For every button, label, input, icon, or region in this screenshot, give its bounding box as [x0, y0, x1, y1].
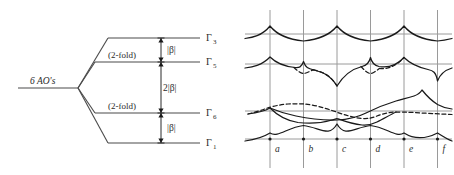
tick-dot-b: [302, 137, 305, 140]
degeneracy-label-gamma6: (2-fold): [108, 101, 136, 111]
gamma6-symbol: Γ: [206, 107, 212, 118]
gamma5-symbol: Γ: [206, 56, 212, 67]
gamma3-subscript: 3: [213, 38, 217, 46]
figure-root: 6 AO's (2-fold) (2-fold) |β| 2|: [0, 0, 454, 175]
band-structure-diagram: a b c d e f: [245, 10, 452, 168]
energy-level-splitting-diagram: 6 AO's (2-fold) (2-fold) |β| 2|: [18, 32, 217, 151]
tick-dot-c: [335, 137, 338, 140]
gap-label-middle: 2|β|: [163, 83, 176, 93]
band-curve-5-bottom: [245, 124, 452, 141]
level-label-gamma3: Γ 3: [206, 32, 217, 46]
fan-line-gamma5: [78, 62, 95, 88]
gap-arrow-upper: [158, 38, 165, 62]
tick-dot-d: [369, 137, 372, 140]
gamma6-subscript: 6: [213, 113, 217, 121]
tick-dot-e: [402, 137, 405, 140]
level-label-gamma6: Γ 6: [206, 107, 217, 121]
tick-label-f: f: [443, 144, 447, 154]
tick-label-a: a: [275, 144, 280, 154]
gamma1-symbol: Γ: [206, 137, 212, 148]
tick-dot-f: [436, 137, 439, 140]
tick-dot-a: [268, 137, 271, 140]
tick-label-e: e: [409, 144, 413, 154]
level-label-gamma1: Γ 1: [206, 137, 217, 151]
source-level-label: 6 AO's: [30, 76, 56, 86]
gamma5-subscript: 5: [213, 62, 217, 70]
gap-label-upper: |β|: [167, 45, 176, 55]
band-curve-2-solid: [245, 57, 452, 86]
gamma1-subscript: 1: [213, 143, 217, 151]
gamma3-symbol: Γ: [206, 32, 212, 43]
band-curve-2-dashed-link-left: [314, 70, 338, 86]
tick-label-b: b: [309, 144, 314, 154]
level-label-gamma5: Γ 5: [206, 56, 217, 70]
gap-label-lower: |β|: [167, 123, 176, 133]
tick-label-d: d: [376, 144, 381, 154]
fan-line-gamma1: [78, 88, 108, 143]
tick-label-c: c: [342, 144, 347, 154]
gap-arrow-lower: [158, 113, 165, 143]
degeneracy-label-gamma5: (2-fold): [108, 50, 136, 60]
